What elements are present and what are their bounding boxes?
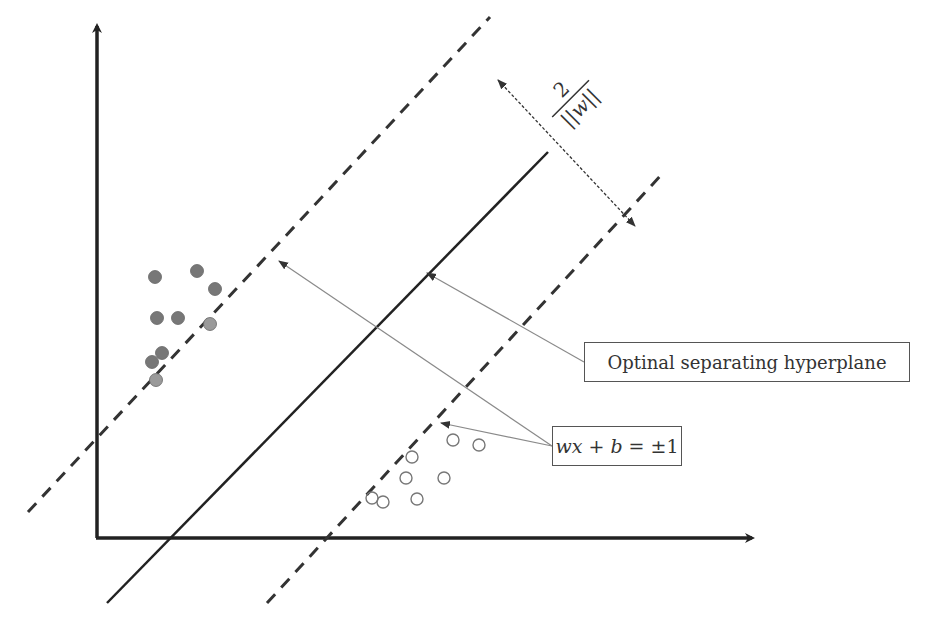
margin-equation-lhs: wx + b	[555, 435, 622, 457]
pointer-lines	[279, 261, 584, 446]
margin-equation-rhs: ±1	[651, 435, 679, 457]
filled-data-point	[172, 312, 185, 325]
filled-data-point	[151, 312, 164, 325]
hollow-data-point	[438, 472, 450, 484]
margin-equation-label: wx + b = ±1	[552, 426, 682, 466]
hollow-data-point	[400, 472, 412, 484]
hyperplane-label: Optinal separating hyperplane	[584, 342, 910, 382]
filled-data-point	[146, 356, 159, 369]
svm-diagram: 2 ||w|| Optinal separating hyperplane wx…	[0, 0, 936, 628]
hollow-data-point	[377, 496, 389, 508]
margin-equation-eq: =	[629, 435, 645, 457]
class-negative-points	[366, 434, 485, 508]
filled-data-point	[204, 318, 217, 331]
diagram-graphics: 2 ||w||	[0, 0, 936, 628]
filled-data-point	[156, 347, 169, 360]
filled-data-point	[149, 271, 162, 284]
hollow-data-point	[447, 434, 459, 446]
hollow-data-point	[473, 439, 485, 451]
filled-data-point	[209, 283, 222, 296]
margin-width-label: 2 ||w||	[535, 63, 608, 136]
hyperplane-label-text: Optinal separating hyperplane	[607, 352, 886, 373]
hollow-data-point	[406, 451, 418, 463]
filled-data-point	[191, 265, 204, 278]
hollow-data-point	[366, 492, 378, 504]
class-positive-points	[146, 265, 222, 387]
hollow-data-point	[411, 493, 423, 505]
filled-data-point	[150, 374, 163, 387]
